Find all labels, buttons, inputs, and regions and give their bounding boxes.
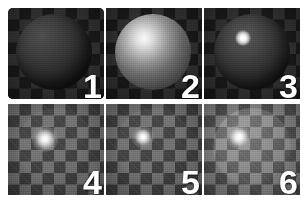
panel-5[interactable]: 5 — [106, 104, 202, 195]
sphere-tight-specular — [214, 14, 290, 90]
sphere-matte-dark — [16, 14, 92, 90]
checkerboard-background — [106, 104, 202, 195]
panel-3[interactable]: 3 — [204, 8, 300, 99]
sphere-broad-highlight — [115, 14, 191, 90]
checkerboard-background — [204, 104, 300, 195]
panel-4[interactable]: 4 — [8, 104, 104, 195]
panel-1[interactable]: 1 — [8, 8, 104, 99]
checkerboard-background — [8, 104, 104, 195]
sphere-render-grid: 1 2 3 4 5 — [0, 0, 304, 206]
panel-2[interactable]: 2 — [106, 8, 202, 99]
panel-6[interactable]: 6 — [204, 104, 300, 195]
